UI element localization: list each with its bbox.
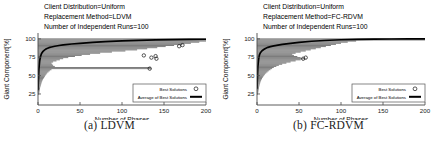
legend-label-best: Best Solutions <box>160 87 187 92</box>
legend-label-average: Average of Best Solutions <box>357 95 406 100</box>
x-tick-label: 100 <box>336 107 347 114</box>
x-tick-label: 50 <box>77 107 84 114</box>
best-solution-marker <box>150 56 153 59</box>
y-tick-label: 75 <box>248 53 255 60</box>
best-solution-marker <box>177 45 180 48</box>
y-axis-title: Giant Component[%] <box>3 38 11 99</box>
annotation-line: Client Distribution=Uniform <box>263 3 344 10</box>
panel-a: 050100150200255075100Number of PhasesGia… <box>0 0 219 151</box>
y-tick-label: 25 <box>248 90 255 97</box>
legend-label-average: Average of Best Solutions <box>138 95 187 100</box>
legend-label-best: Best Solutions <box>379 87 406 92</box>
plot-b: 050100150200255075100Number of PhasesGia… <box>219 0 438 120</box>
annotation-line: Replacement Method=FC-RDVM <box>263 13 363 21</box>
annotation-line: Number of Independent Runs=100 <box>44 23 149 31</box>
x-tick-label: 200 <box>420 107 431 114</box>
best-solution-marker <box>181 43 184 46</box>
chart-a-svg: 050100150200255075100Number of PhasesGia… <box>0 0 219 120</box>
x-tick-label: 0 <box>36 107 40 114</box>
y-tick-label: 75 <box>29 53 36 60</box>
x-tick-label: 200 <box>201 107 212 114</box>
annotation-line: Number of Independent Runs=100 <box>263 23 368 31</box>
y-axis-title: Giant Component[%] <box>222 38 230 99</box>
x-tick-label: 0 <box>255 107 259 114</box>
caption-b: (b) FC-RDVM <box>219 119 438 131</box>
annotation-line: Client Distribution=Uniform <box>44 3 125 10</box>
x-tick-label: 150 <box>378 107 389 114</box>
x-tick-label: 100 <box>117 107 128 114</box>
x-tick-label: 50 <box>296 107 303 114</box>
annotation-line: Replacement Method=LDVM <box>44 13 132 21</box>
best-solution-marker <box>142 54 145 57</box>
caption-a: (a) LDVM <box>0 119 219 131</box>
x-tick-label: 150 <box>159 107 170 114</box>
y-tick-label: 100 <box>244 35 255 42</box>
plot-a: 050100150200255075100Number of PhasesGia… <box>0 0 219 120</box>
chart-b-svg: 050100150200255075100Number of PhasesGia… <box>219 0 438 120</box>
y-tick-label: 50 <box>248 72 255 79</box>
y-tick-label: 100 <box>25 35 36 42</box>
figure-two-panel: 050100150200255075100Number of PhasesGia… <box>0 0 438 151</box>
panel-b: 050100150200255075100Number of PhasesGia… <box>219 0 438 151</box>
y-tick-label: 50 <box>29 72 36 79</box>
y-tick-label: 25 <box>29 90 36 97</box>
